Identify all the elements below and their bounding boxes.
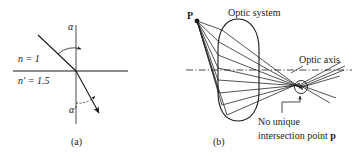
- refractive-index-upper-label: n = 1: [18, 54, 40, 64]
- refracted-ray: [76, 71, 99, 113]
- optic-system-label: Optic system: [228, 8, 281, 18]
- optic-axis-leader-line: [291, 66, 303, 73]
- source-point-marker: [195, 19, 200, 24]
- optics-figure: n = 1 n′ = 1.5 α α′ (a) P Optic system O…: [0, 0, 360, 159]
- refractive-index-lower-label: n′ = 1.5: [18, 76, 49, 86]
- source-point-label: P: [187, 11, 193, 21]
- angle-of-incidence-label: α: [68, 22, 73, 32]
- caption-leader-line: [282, 96, 300, 113]
- angle-of-refraction-label: α′: [69, 105, 76, 115]
- panel-b-drawing: [186, 19, 352, 121]
- panel-b-caption: (b): [213, 137, 225, 147]
- optic-axis-label: Optic axis: [299, 55, 340, 65]
- panel-a-caption: (a): [71, 137, 82, 147]
- no-unique-intersection-line1: No unique: [258, 117, 300, 127]
- incident-ray-fan: [197, 21, 227, 115]
- image-point-symbol: p: [330, 130, 336, 141]
- no-unique-intersection-line2-prefix: intersection point: [258, 130, 330, 141]
- incident-ray: [38, 35, 76, 71]
- angle-incidence-arc: [58, 48, 81, 54]
- no-unique-intersection-line2: intersection point p: [258, 131, 336, 141]
